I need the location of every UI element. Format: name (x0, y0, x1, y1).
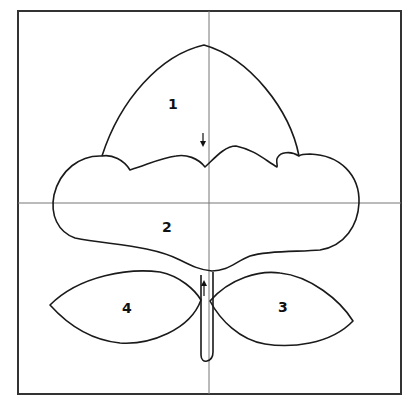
piece-4-label: 4 (122, 300, 132, 316)
down-arrow-icon (200, 133, 206, 147)
piece-2-label: 2 (162, 219, 172, 235)
up-arrow-icon (201, 280, 207, 296)
piece-3-label: 3 (278, 299, 288, 315)
pattern-diagram: 1 2 3 4 (0, 0, 412, 407)
piece-2-cloud (53, 146, 359, 271)
piece-1-label: 1 (168, 96, 178, 112)
piece-1-dome (102, 45, 299, 156)
